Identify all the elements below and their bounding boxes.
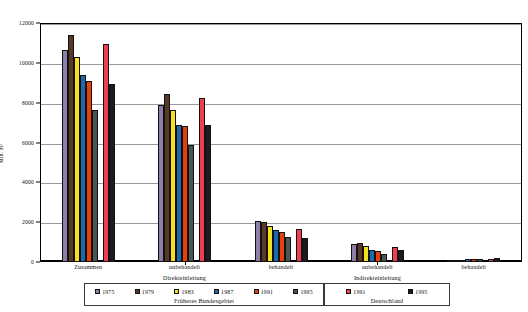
legend-label: 1979 (142, 289, 154, 295)
bar (92, 110, 98, 262)
y-axis-tick-label: 4000 (22, 179, 34, 185)
y-axis-tick-label: 0 (31, 259, 34, 265)
legend-swatch-icon (293, 289, 298, 294)
legend-swatch-icon (95, 289, 100, 294)
y-axis-tick-label: 10000 (19, 60, 34, 66)
y-axis-tick-label: 6000 (22, 140, 34, 146)
bar (205, 125, 211, 262)
y-axis-title: Mill. m³ (0, 144, 4, 163)
legend-swatch-icon (254, 289, 259, 294)
legend-item[interactable]: 1991 (346, 289, 365, 295)
y-axis-tick-label: 12000 (19, 20, 34, 26)
bar (188, 145, 194, 262)
category-label: behandelt (461, 264, 486, 270)
legend-swatch-icon (135, 289, 140, 294)
category-label: Zusammen (74, 264, 102, 270)
bar (109, 84, 115, 262)
legend-swatch-icon (174, 289, 179, 294)
legend-item[interactable]: 1995 (293, 289, 312, 295)
y-axis-tick-label: 2000 (22, 219, 34, 225)
legend-swatch-icon (214, 289, 219, 294)
group-label: Direkteinleitung (163, 274, 206, 281)
bar (494, 258, 500, 262)
group-label: Indirekteinleitung (354, 274, 401, 281)
legend-item[interactable]: 1983 (174, 289, 193, 295)
legend-label: 1987 (221, 289, 233, 295)
y-axis: Mill. m³ 020004000600080001000012000 (0, 23, 40, 262)
legend-items: 197519791983198719911995 (85, 287, 323, 297)
legend-item[interactable]: 1975 (95, 289, 114, 295)
legend-label: 1991 (353, 289, 365, 295)
legend-frueheres-bundesgebiet: 197519791983198719911995 Früheres Bundes… (84, 283, 324, 306)
bar (285, 237, 291, 262)
bar-chart: Mill. m³ 020004000600080001000012000 Zus… (0, 0, 528, 312)
legend-label: 1975 (102, 289, 114, 295)
legend-label: 1995 (300, 289, 312, 295)
legend-item[interactable]: 1991 (254, 289, 273, 295)
legend-title: Deutschland (325, 297, 449, 304)
legend-label: 1983 (181, 289, 193, 295)
bar (381, 254, 387, 262)
legend-items: 19911995 (325, 287, 449, 297)
legend-item[interactable]: 1979 (135, 289, 154, 295)
bar (398, 250, 404, 262)
legend-deutschland: 19911995 Deutschland (324, 283, 450, 306)
group-tick (185, 261, 186, 265)
y-axis-tick-label: 8000 (22, 100, 34, 106)
legend-item[interactable]: 1995 (408, 289, 427, 295)
legend-swatch-icon (408, 289, 413, 294)
legend-label: 1995 (415, 289, 427, 295)
legend-swatch-icon (346, 289, 351, 294)
legend-title: Früheres Bundesgebiet (85, 297, 323, 304)
legend-label: 1991 (261, 289, 273, 295)
category-label: behandelt (269, 264, 294, 270)
bar (477, 259, 483, 262)
bars-layer (40, 23, 522, 262)
bar (302, 238, 308, 262)
group-tick (377, 261, 378, 265)
legend-item[interactable]: 1987 (214, 289, 233, 295)
